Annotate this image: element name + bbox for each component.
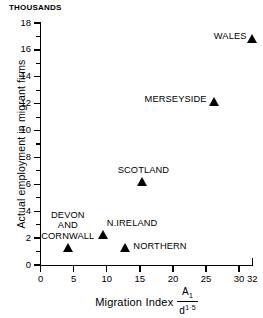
scatter-chart: THOUSANDS 024681012141618 05101520253032… bbox=[0, 0, 263, 318]
x-axis-title: Migration IndexA1d1·5 bbox=[40, 288, 253, 317]
x-tick-20 bbox=[172, 265, 173, 272]
data-point-wales bbox=[247, 34, 257, 43]
y-tick-10 bbox=[34, 130, 41, 131]
fraction-numerator: A1 bbox=[177, 287, 197, 302]
y-tick-minor-9 bbox=[36, 143, 41, 144]
x-axis-end-cap bbox=[252, 258, 253, 265]
x-tick-0 bbox=[40, 265, 41, 272]
x-axis-title-text: Migration Index bbox=[95, 296, 173, 308]
x-tick-label-15: 15 bbox=[125, 273, 155, 284]
x-tick-10 bbox=[106, 265, 107, 272]
y-tick-6 bbox=[34, 184, 41, 185]
x-tick-label-10: 10 bbox=[92, 273, 122, 284]
x-tick-25 bbox=[205, 265, 206, 272]
devon-label-line-3: CORNWALL bbox=[31, 231, 105, 242]
y-tick-minor-11 bbox=[36, 117, 41, 118]
x-axis-line bbox=[40, 265, 253, 266]
fraction-numerator-subscript: 1 bbox=[189, 292, 193, 299]
x-tick-label-0: 0 bbox=[26, 273, 56, 284]
x-tick-label-32: 32 bbox=[237, 273, 263, 284]
data-label-merseyside: MERSEYSIDE bbox=[145, 94, 207, 105]
data-label-devon-and-cornwall: DEVONANDCORNWALL bbox=[31, 210, 105, 242]
y-tick-label-0: 0 bbox=[5, 260, 31, 270]
data-point-northern bbox=[120, 243, 130, 252]
data-label-northern: NORTHERN bbox=[133, 241, 186, 252]
x-tick-30 bbox=[238, 265, 239, 272]
devon-label-line-1: DEVON bbox=[31, 210, 105, 221]
devon-label-line-2: AND bbox=[31, 220, 105, 231]
y-tick-minor-1 bbox=[36, 251, 41, 252]
data-point-merseyside bbox=[209, 97, 219, 106]
x-axis-title-fraction: A1d1·5 bbox=[177, 287, 197, 316]
x-tick-label-25: 25 bbox=[191, 273, 221, 284]
x-tick-5 bbox=[73, 265, 74, 272]
data-point-devon-and-cornwall bbox=[63, 243, 73, 252]
x-tick-label-5: 5 bbox=[59, 273, 89, 284]
units-label: THOUSANDS bbox=[9, 3, 61, 13]
y-tick-minor-17 bbox=[36, 36, 41, 37]
y-tick-minor-15 bbox=[36, 63, 41, 64]
y-axis-title: Actual employment in migrant firms bbox=[15, 37, 27, 251]
y-tick-minor-13 bbox=[36, 90, 41, 91]
y-tick-14 bbox=[34, 76, 41, 77]
y-tick-label-18: 18 bbox=[5, 18, 31, 28]
y-tick-12 bbox=[34, 103, 41, 104]
y-tick-16 bbox=[34, 49, 41, 50]
data-point-scotland bbox=[137, 177, 147, 186]
y-tick-18 bbox=[34, 22, 41, 23]
fraction-denominator: d1·5 bbox=[177, 302, 197, 316]
y-tick-8 bbox=[34, 157, 41, 158]
data-label-wales: WALES bbox=[214, 31, 247, 42]
y-tick-minor-7 bbox=[36, 170, 41, 171]
data-label-n-ireland: N.IRELAND bbox=[107, 218, 158, 229]
y-tick-minor-5 bbox=[36, 197, 41, 198]
data-label-scotland: SCOTLAND bbox=[118, 165, 169, 176]
x-tick-label-20: 20 bbox=[158, 273, 188, 284]
x-tick-15 bbox=[139, 265, 140, 272]
fraction-denominator-exponent: 1·5 bbox=[185, 304, 196, 311]
